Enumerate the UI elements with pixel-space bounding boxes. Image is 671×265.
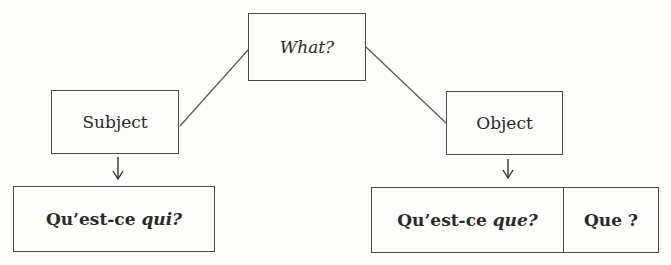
object-node-label: Object: [476, 113, 533, 133]
object-form-node: Qu’est-ce que? Que ?: [371, 187, 659, 253]
object-arrow-icon: [503, 159, 513, 178]
object-form-cell-short: Que ?: [563, 188, 658, 252]
object-form-short-label: Que ?: [584, 210, 638, 230]
object-form-long-prefix: Qu’est-ce: [397, 210, 492, 230]
subject-node-label: Subject: [82, 112, 147, 132]
root-to-object-line: [366, 47, 446, 123]
subject-form-italic: qui?: [141, 209, 182, 229]
root-to-subject-line: [180, 50, 248, 126]
subject-node: Subject: [51, 90, 179, 154]
object-form-long-label: Qu’est-ce que?: [397, 210, 538, 230]
root-node-label: What?: [280, 37, 335, 57]
subject-form-node: Qu’est-ce qui?: [13, 186, 215, 252]
subject-form-prefix: Qu’est-ce: [46, 209, 141, 229]
object-node: Object: [446, 91, 563, 155]
object-form-long-italic: que?: [493, 210, 538, 230]
subject-arrow-icon: [113, 157, 123, 179]
object-form-cell-long: Qu’est-ce que?: [372, 188, 563, 252]
root-node-what: What?: [248, 13, 366, 81]
subject-form-label: Qu’est-ce qui?: [46, 209, 182, 229]
